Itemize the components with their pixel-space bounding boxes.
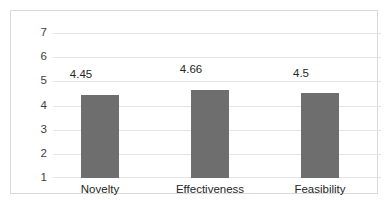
- bar-chart: 7 6 5 4 3 2 1 4.45 4.66 4.5: [0, 0, 390, 208]
- bar-feasibility[interactable]: [301, 93, 339, 178]
- y-axis: 7 6 5 4 3 2 1: [23, 33, 47, 178]
- gridline: [53, 57, 381, 58]
- y-tick-label: 7: [25, 27, 47, 39]
- x-tick-label-effectiveness: Effectiveness: [155, 183, 265, 196]
- x-tick-label-novelty: Novelty: [45, 183, 155, 196]
- y-tick-label: 3: [25, 124, 47, 136]
- x-tick-label-feasibility: Feasibility: [265, 183, 375, 196]
- chart-plot-frame: 7 6 5 4 3 2 1 4.45 4.66 4.5: [10, 10, 378, 194]
- bar-value-label: 4.5: [271, 68, 331, 80]
- bar-novelty[interactable]: [81, 95, 119, 178]
- x-axis: Novelty Effectiveness Feasibility: [53, 183, 381, 201]
- y-tick-label: 2: [25, 148, 47, 160]
- bar-value-label: 4.66: [161, 64, 221, 76]
- plot-area: 4.45 4.66 4.5: [53, 33, 381, 178]
- y-tick-label: 6: [25, 51, 47, 63]
- bar-value-label: 4.45: [51, 69, 111, 81]
- bar-effectiveness[interactable]: [191, 90, 229, 179]
- y-tick-label: 4: [25, 100, 47, 112]
- y-tick-label: 1: [25, 172, 47, 184]
- y-tick-label: 5: [25, 76, 47, 88]
- gridline: [53, 33, 381, 34]
- gridline: [53, 81, 381, 82]
